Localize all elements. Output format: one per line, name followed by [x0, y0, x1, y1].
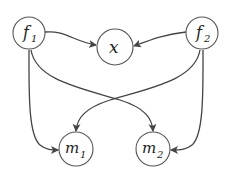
node-f1-subscript: 1	[31, 33, 37, 44]
edge-f1-x	[45, 32, 96, 45]
edge-f1-m1	[29, 50, 58, 150]
node-m2-subscript: 2	[156, 149, 163, 160]
edge-f2-m2	[171, 50, 203, 150]
edge-f1-m2	[31, 50, 153, 131]
node-f2-subscript: 2	[203, 33, 210, 44]
diagram-canvas: f 1 x f 2 m 1 m 2	[0, 0, 227, 177]
node-m1-subscript: 1	[80, 149, 86, 160]
node-m1: m 1	[59, 132, 93, 166]
edge-f2-x	[134, 32, 186, 46]
node-m1-label: m	[65, 139, 79, 157]
edge-f2-m1	[76, 50, 200, 131]
node-m2-label: m	[142, 139, 156, 157]
node-x-label: x	[109, 37, 119, 57]
node-x: x	[97, 29, 133, 65]
node-m2: m 2	[136, 132, 170, 166]
node-f1: f 1	[13, 17, 45, 49]
node-f2: f 2	[186, 17, 218, 49]
